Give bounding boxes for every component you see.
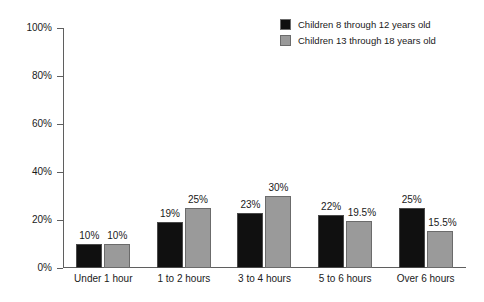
y-tick-label-0: 0% — [38, 261, 52, 274]
y-tick-label-80: 80% — [32, 69, 52, 82]
bar-wrap-gray: 15.5% — [427, 231, 453, 268]
bar-groups: 10% 10% 19% 25% — [63, 28, 466, 268]
plot-area: 100% 80% 60% 40% 20% 0% 10% — [63, 28, 466, 268]
bar-group-over-6-hours: 25% 15.5% — [385, 28, 466, 268]
bar-wrap-gray: 25% — [185, 208, 211, 268]
x-axis-labels: Under 1 hour 1 to 2 hours 3 to 4 hours 5… — [63, 272, 466, 285]
bar-children-8-12 — [237, 213, 263, 268]
bar-wrap-dark: 23% — [237, 213, 263, 268]
bar-value-label: 10% — [107, 230, 127, 242]
bar-value-label: 25% — [402, 194, 422, 206]
y-tick-label-20: 20% — [32, 213, 52, 226]
y-tick-label-40: 40% — [32, 165, 52, 178]
bar-wrap-dark: 19% — [157, 222, 183, 268]
bar-wrap-gray: 10% — [104, 244, 130, 268]
bar-children-13-18 — [185, 208, 211, 268]
bar-group-under-1-hour: 10% 10% — [63, 28, 144, 268]
bar-group-1-to-2-hours: 19% 25% — [144, 28, 225, 268]
bar-children-8-12 — [157, 222, 183, 268]
bar-value-label: 22% — [321, 201, 341, 213]
bar-wrap-gray: 30% — [265, 196, 291, 268]
bar-group-5-to-6-hours: 22% 19.5% — [305, 28, 386, 268]
x-tick-label-3-to-4-hours: 3 to 4 hours — [224, 272, 305, 285]
bar-wrap-gray: 19.5% — [346, 221, 372, 268]
bar-children-8-12 — [76, 244, 102, 268]
bar-value-label: 30% — [268, 182, 288, 194]
x-tick-label-1-to-2-hours: 1 to 2 hours — [144, 272, 225, 285]
bar-value-label: 25% — [188, 194, 208, 206]
bar-children-13-18 — [265, 196, 291, 268]
bar-value-label: 10% — [79, 230, 99, 242]
bar-children-13-18 — [427, 231, 453, 268]
x-tick-label-under-1-hour: Under 1 hour — [63, 272, 144, 285]
y-tick-label-60: 60% — [32, 117, 52, 130]
bar-children-13-18 — [346, 221, 372, 268]
bar-children-13-18 — [104, 244, 130, 268]
bar-group-3-to-4-hours: 23% 30% — [224, 28, 305, 268]
bar-wrap-dark: 22% — [318, 215, 344, 268]
bar-wrap-dark: 25% — [399, 208, 425, 268]
bar-children-8-12 — [318, 215, 344, 268]
bar-children-8-12 — [399, 208, 425, 268]
bar-value-label: 19% — [160, 208, 180, 220]
bar-value-label: 15.5% — [428, 217, 456, 229]
bar-value-label: 23% — [240, 199, 260, 211]
x-tick-label-5-to-6-hours: 5 to 6 hours — [305, 272, 386, 285]
bar-value-label: 19.5% — [348, 207, 376, 219]
bar-wrap-dark: 10% — [76, 244, 102, 268]
y-tick-0: 0% — [57, 268, 63, 269]
x-tick-label-over-6-hours: Over 6 hours — [385, 272, 466, 285]
y-tick-label-100: 100% — [26, 21, 52, 34]
bar-chart: Children 8 through 12 years old Children… — [0, 0, 484, 302]
